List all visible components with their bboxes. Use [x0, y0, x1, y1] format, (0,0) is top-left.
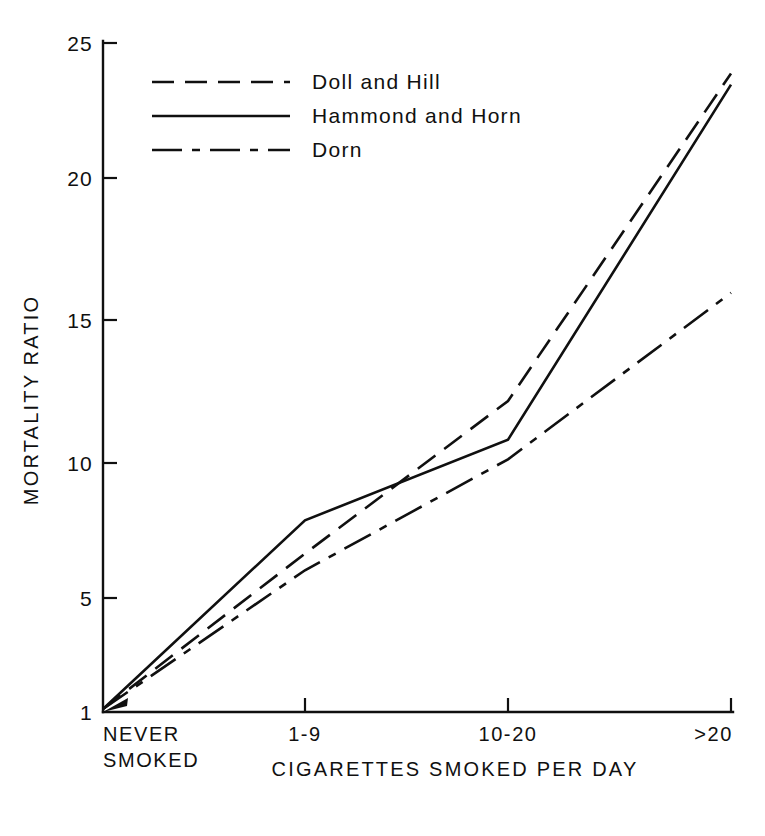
series-line-doll-and-hill [103, 74, 731, 710]
x-category-label-1-9: 1-9 [288, 723, 322, 745]
y-tick-label-20: 20 [67, 167, 93, 190]
x-category-label-never-smoked-line2: SMOKED [103, 749, 199, 771]
x-category-label-gt20: >20 [694, 723, 733, 745]
x-category-label-never-smoked-line1: NEVER [103, 723, 180, 745]
series-line-hammond-and-horn [103, 85, 731, 709]
y-tick-label-1: 1 [80, 701, 93, 724]
y-axis-title: MORTALITY RATIO [20, 295, 42, 505]
y-tick-label-10: 10 [67, 452, 93, 475]
figure-container: 25 20 15 10 5 1 MORTALITY RATIO NEVER SM… [0, 0, 765, 836]
series-line-dorn [103, 293, 731, 709]
y-tick-group [103, 43, 117, 598]
mortality-ratio-line-chart: 25 20 15 10 5 1 MORTALITY RATIO NEVER SM… [0, 0, 765, 836]
x-tick-group [305, 698, 731, 712]
y-tick-label-25: 25 [67, 32, 93, 55]
axes-group [103, 41, 733, 712]
legend-label-dorn: Dorn [312, 138, 363, 161]
x-category-label-10-20: 10-20 [478, 723, 537, 745]
y-tick-label-5: 5 [80, 587, 93, 610]
legend: Doll and Hill Hammond and Horn Dorn [152, 70, 522, 161]
x-axis-title: CIGARETTES SMOKED PER DAY [272, 758, 639, 780]
legend-label-hammond-and-horn: Hammond and Horn [312, 104, 522, 127]
y-tick-label-15: 15 [67, 309, 93, 332]
legend-label-doll-and-hill: Doll and Hill [312, 70, 441, 93]
